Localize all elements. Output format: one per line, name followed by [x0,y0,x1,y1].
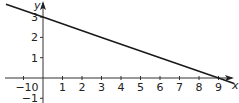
line-chart: −10123456789 −1123 x y [0,0,239,103]
x-ticks: −10123456789 [15,76,222,94]
x-tick-label: 8 [196,81,203,94]
data-series [6,4,234,83]
x-tick-label: 3 [98,81,105,94]
y-tick-label: −1 [22,92,38,103]
chart-svg: −10123456789 −1123 x y [0,0,239,103]
x-tick-label: 6 [157,81,164,94]
x-tick-label: 7 [176,81,183,94]
data-line [6,4,234,83]
y-tick-label: 1 [31,52,38,65]
x-tick-label: 2 [79,81,86,94]
y-tick-label: 2 [31,31,38,44]
x-tick-label: 5 [137,81,144,94]
x-tick-label: 1 [59,81,66,94]
x-tick-label: 9 [215,81,222,94]
x-axis-label: x [231,79,239,92]
y-axis-label: y [33,0,41,12]
x-tick-label: 4 [118,81,125,94]
